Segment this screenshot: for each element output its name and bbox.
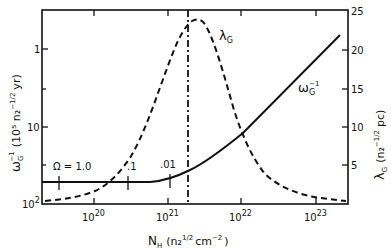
svg-text:1: 1: [34, 44, 40, 55]
y-right-ticks: [342, 50, 348, 165]
svg-text:102: 102: [22, 196, 40, 210]
omega-label-01: .1: [127, 161, 137, 172]
svg-text:5: 5: [351, 160, 357, 171]
svg-text:1022: 1022: [229, 209, 252, 223]
y-left-tick-labels: 1 10 102: [22, 44, 40, 210]
x-axis-label: NH(n₂1/2cm−2): [148, 234, 229, 250]
lambda-curve: [45, 19, 346, 201]
omega-label-001: .01: [160, 159, 176, 170]
y-left-ticks: [42, 49, 48, 165]
svg-text:10: 10: [27, 122, 40, 133]
y-left-axis-label: ωG−1(10⁵ n₂−1/2yr): [8, 74, 25, 172]
x-axis-ticks: [94, 198, 316, 204]
y-right-tick-labels: 25 20 15 10 5: [351, 6, 364, 171]
plot-frame: [42, 10, 348, 204]
chart: 1020 1021 1022 1023 1 10 102 25 20 15 10…: [0, 0, 391, 251]
y-right-axis-label: λG(n₂−1/2pc): [372, 110, 389, 180]
omega-curve-label: ωG−1: [298, 80, 319, 97]
x-tick-labels: 1020 1021 1022 1023: [82, 209, 327, 223]
svg-text:20: 20: [351, 45, 364, 56]
lambda-curve-label: λG: [219, 28, 233, 45]
svg-text:25: 25: [351, 6, 364, 17]
omega-label-1: Ω = 1.0: [53, 161, 91, 172]
svg-text:1021: 1021: [156, 209, 179, 223]
omega-inverse-curve: [42, 35, 340, 182]
top-ticks: [94, 10, 316, 16]
svg-text:1020: 1020: [82, 209, 105, 223]
svg-text:1023: 1023: [304, 209, 327, 223]
svg-text:15: 15: [351, 84, 364, 95]
svg-text:10: 10: [351, 122, 364, 133]
